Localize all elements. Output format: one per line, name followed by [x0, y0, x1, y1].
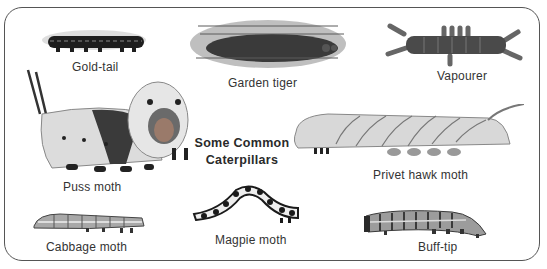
label-vapourer: Vapourer [437, 69, 487, 83]
buff-tip-illustration [362, 204, 490, 240]
garden-tiger-illustration [188, 14, 350, 74]
label-privet-hawk-moth: Privet hawk moth [373, 168, 468, 182]
label-magpie-moth: Magpie moth [215, 233, 287, 247]
plate-title-line2: Caterpillars [192, 152, 292, 169]
gold-tail-illustration [40, 28, 150, 56]
cabbage-moth-illustration [30, 210, 148, 236]
label-buff-tip: Buff-tip [418, 240, 457, 254]
puss-moth-illustration [22, 68, 192, 176]
label-garden-tiger: Garden tiger [228, 76, 297, 90]
plate-title: Some Common Caterpillars [192, 135, 292, 169]
privet-hawk-moth-illustration [288, 104, 524, 160]
plate-title-line1: Some Common [192, 135, 292, 152]
magpie-moth-illustration [190, 184, 302, 224]
label-puss-moth: Puss moth [63, 180, 122, 194]
vapourer-illustration [384, 22, 524, 68]
label-cabbage-moth: Cabbage moth [46, 240, 127, 254]
